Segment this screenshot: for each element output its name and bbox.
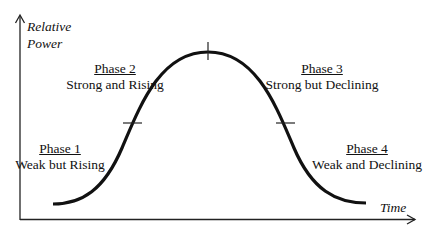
y-axis-label-line-1: Relative	[27, 18, 71, 35]
phase-3-title: Phase 3	[257, 61, 387, 77]
phase-2-description: Strong and Rising	[60, 77, 170, 93]
y-axis-label: Relative Power	[27, 18, 71, 52]
phase-3-label: Phase 3 Strong but Declining	[257, 61, 387, 93]
phase-2-label: Phase 2 Strong and Rising	[60, 61, 170, 93]
phase-1-title: Phase 1	[5, 141, 115, 157]
phase-1-label: Phase 1 Weak but Rising	[5, 141, 115, 173]
phase-2-title: Phase 2	[60, 61, 170, 77]
phase-4-label: Phase 4 Weak and Declining	[302, 141, 429, 173]
x-axis-label: Time	[380, 199, 406, 216]
phase-3-description: Strong but Declining	[257, 77, 387, 93]
phase-4-title: Phase 4	[302, 141, 429, 157]
phase-1-description: Weak but Rising	[5, 157, 115, 173]
y-axis-label-line-2: Power	[27, 35, 71, 52]
phase-4-description: Weak and Declining	[302, 157, 429, 173]
